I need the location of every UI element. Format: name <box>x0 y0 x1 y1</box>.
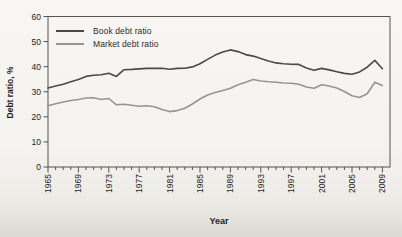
series-line-market-debt-ratio <box>48 80 382 112</box>
x-tick-label: 1989 <box>225 174 235 193</box>
series-line-book-debt-ratio <box>48 50 382 88</box>
x-tick-label: 1985 <box>195 174 205 193</box>
y-tick-label: 10 <box>32 137 42 147</box>
legend-item-book-debt-ratio: Book debt ratio <box>56 25 158 36</box>
y-tick-label: 20 <box>32 112 42 122</box>
x-tick-label: 1973 <box>104 174 114 193</box>
legend: Book debt ratio Market debt ratio <box>56 25 158 49</box>
x-tick-label: 1997 <box>286 174 296 193</box>
debt-ratio-figure: 0102030405060196519691973197719811985198… <box>0 0 402 237</box>
x-tick-label: 2001 <box>317 174 327 193</box>
legend-label-book-debt-ratio: Book debt ratio <box>93 26 152 36</box>
x-tick-label: 1969 <box>73 174 83 193</box>
y-tick-label: 60 <box>32 12 42 22</box>
book-debt-ratio-line-swatch <box>56 30 84 32</box>
x-axis-title: Year <box>48 216 390 226</box>
x-tick-label: 1981 <box>165 174 175 193</box>
y-tick-label: 50 <box>32 37 42 47</box>
x-tick-label: 1977 <box>134 174 144 193</box>
y-tick-label: 40 <box>32 62 42 72</box>
x-tick-label: 2009 <box>377 174 387 193</box>
x-tick-label: 1965 <box>43 174 53 193</box>
legend-label-market-debt-ratio: Market debt ratio <box>93 39 158 49</box>
legend-item-market-debt-ratio: Market debt ratio <box>56 38 158 49</box>
y-axis-title: Debt ratio, % <box>5 18 16 168</box>
x-tick-label: 2005 <box>347 174 357 193</box>
y-tick-label: 0 <box>36 162 41 172</box>
y-tick-label: 30 <box>32 87 42 97</box>
x-tick-label: 1993 <box>256 174 266 193</box>
market-debt-ratio-line-swatch <box>56 43 84 45</box>
